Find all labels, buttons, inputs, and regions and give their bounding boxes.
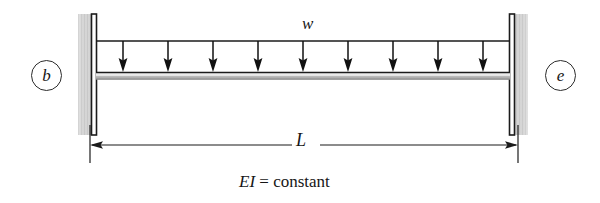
load-arrow xyxy=(389,41,398,72)
stiffness-equals: = xyxy=(255,172,273,191)
load-arrow xyxy=(209,41,218,72)
support-left-bar xyxy=(92,14,97,135)
load-arrow xyxy=(479,41,488,72)
load-arrow xyxy=(119,41,128,72)
load-arrow-group xyxy=(119,41,488,72)
load-arrow xyxy=(299,41,308,72)
beam-member xyxy=(96,72,510,80)
node-label-e-text: e xyxy=(557,65,565,85)
load-arrow xyxy=(344,41,353,72)
beam-diagram: b e w L EI = constant xyxy=(0,0,600,203)
support-right-bar xyxy=(510,14,515,135)
stiffness-note: EI = constant xyxy=(239,173,330,190)
load-intensity-label: w xyxy=(302,15,313,32)
node-label-e: e xyxy=(545,60,576,91)
stiffness-symbol: EI xyxy=(239,172,255,191)
load-arrow xyxy=(434,41,443,72)
load-arrow xyxy=(164,41,173,72)
support-left-hatch-texture xyxy=(78,14,92,135)
support-right-fixed xyxy=(510,14,529,135)
support-right-hatch-texture xyxy=(514,14,528,135)
span-length-label: L xyxy=(296,131,306,149)
distributed-load xyxy=(96,41,510,72)
load-arrow xyxy=(254,41,263,72)
support-left-fixed xyxy=(78,14,97,135)
node-label-b: b xyxy=(31,60,62,91)
node-label-b-text: b xyxy=(42,65,51,85)
stiffness-value: constant xyxy=(273,172,330,191)
